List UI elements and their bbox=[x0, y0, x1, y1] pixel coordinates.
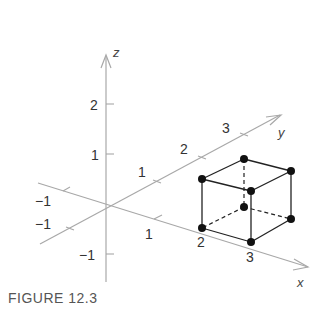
x-label-3: 3 bbox=[246, 249, 254, 265]
figure-caption: FIGURE 12.3 bbox=[8, 290, 98, 306]
x-axis-label: x bbox=[296, 275, 304, 290]
cube-visible-edges bbox=[202, 159, 291, 242]
z-label-neg1: −1 bbox=[79, 247, 95, 263]
z-label-1: 1 bbox=[91, 147, 99, 163]
vertex-dot-icon bbox=[198, 224, 206, 232]
vertex-dot-icon bbox=[287, 167, 295, 175]
x-tick-neg1 bbox=[63, 187, 70, 191]
vertex-dot-icon bbox=[240, 155, 248, 163]
y-label-1: 1 bbox=[138, 164, 146, 180]
vertex-dot-icon bbox=[240, 203, 248, 211]
x-label-neg1: −1 bbox=[35, 193, 51, 209]
3d-coordinate-diagram: z y x 2 1 −1 1 2 3 −1 1 2 3 −1 bbox=[0, 0, 327, 311]
cube-hidden-edges bbox=[202, 159, 291, 228]
vertex-dot-icon bbox=[198, 175, 206, 183]
y-label-neg1: −1 bbox=[35, 216, 51, 232]
vertex-dot-icon bbox=[247, 187, 255, 195]
y-axis-arrow-icon bbox=[266, 115, 281, 125]
z-axis-label: z bbox=[112, 45, 120, 60]
x-label-2: 2 bbox=[197, 234, 205, 250]
vertex-dot-icon bbox=[287, 215, 295, 223]
y-label-2: 2 bbox=[180, 141, 188, 157]
y-axis-label: y bbox=[277, 125, 286, 140]
y-label-3: 3 bbox=[222, 120, 230, 136]
x-tick-1 bbox=[154, 215, 162, 219]
z-label-2: 2 bbox=[90, 97, 98, 113]
x-label-1: 1 bbox=[145, 226, 153, 242]
vertex-dot-icon bbox=[247, 238, 255, 246]
